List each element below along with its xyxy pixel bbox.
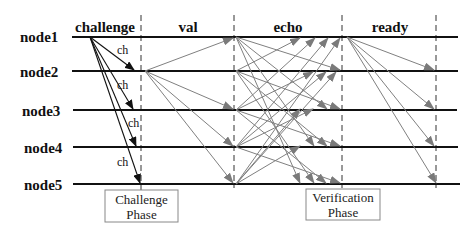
node-label-5: node5 (24, 177, 62, 193)
node-labels: node1 node2 node3 node4 node5 (20, 29, 63, 193)
phase-label-challenge: challenge (75, 19, 135, 35)
ch-label-4: ch (117, 155, 128, 169)
challenge-phase-line1: Challenge (115, 192, 168, 207)
phase-label-echo: echo (273, 19, 302, 35)
consensus-sequence-diagram: challenge val echo ready node1 node2 nod… (0, 0, 475, 235)
challenge-phase-box: Challenge Phase (105, 190, 178, 222)
node-label-4: node4 (24, 140, 63, 156)
node-label-3: node3 (22, 103, 60, 119)
node-label-2: node2 (20, 64, 58, 80)
verification-phase-line2: Phase (328, 205, 359, 220)
verification-phase-box: Verification Phase (306, 189, 380, 220)
ch-label-1: ch (117, 43, 128, 57)
node-label-1: node1 (20, 29, 58, 45)
verification-phase-line1: Verification (312, 190, 374, 205)
challenge-phase-line2: Phase (126, 207, 157, 222)
phase-headers: challenge val echo ready (75, 19, 409, 35)
ch-label-3: ch (128, 116, 139, 130)
phase-label-val: val (178, 19, 197, 35)
ch-label-2: ch (117, 78, 128, 92)
node-timelines (72, 37, 460, 184)
phase-label-ready: ready (372, 19, 409, 35)
